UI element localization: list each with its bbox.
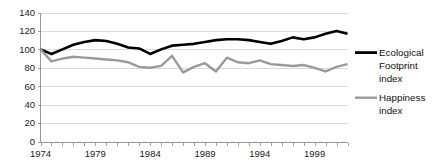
y-tick-label: 60 bbox=[24, 81, 35, 92]
legend-label: Footprint bbox=[379, 60, 418, 71]
x-tick-label: 1984 bbox=[140, 148, 161, 159]
x-tick-label: 1989 bbox=[194, 148, 215, 159]
y-tick-label: 0 bbox=[30, 136, 35, 147]
y-tick-label: 20 bbox=[24, 117, 35, 128]
y-tick-labels: 020406080100120140 bbox=[19, 7, 35, 147]
chart-legend: EcologicalFootprintindexHappinessindex bbox=[355, 47, 425, 116]
y-tick-label: 140 bbox=[19, 7, 35, 18]
y-tick-label: 40 bbox=[24, 99, 35, 110]
data-series bbox=[41, 31, 348, 72]
y-tick-label: 120 bbox=[19, 25, 35, 36]
legend-label: Ecological bbox=[379, 47, 424, 58]
x-tick-label: 1999 bbox=[304, 148, 325, 159]
y-tick-label: 100 bbox=[19, 44, 35, 55]
line-chart: 020406080100120140 197419791984198919941… bbox=[0, 0, 441, 163]
legend-label: index bbox=[379, 105, 403, 116]
x-tick-label: 1974 bbox=[30, 148, 51, 159]
series-line bbox=[41, 31, 348, 54]
y-tick-label: 80 bbox=[24, 62, 35, 73]
x-axis bbox=[41, 143, 349, 146]
series-line bbox=[41, 49, 348, 72]
x-tick-label: 1979 bbox=[85, 148, 106, 159]
gridlines bbox=[41, 14, 348, 124]
legend-label: Happiness bbox=[379, 92, 425, 103]
legend-label: index bbox=[379, 73, 403, 84]
y-axis bbox=[38, 13, 41, 143]
chart-canvas: 020406080100120140 197419791984198919941… bbox=[0, 0, 441, 163]
x-tick-label: 1994 bbox=[249, 148, 270, 159]
x-tick-labels: 197419791984198919941999 bbox=[30, 148, 325, 159]
